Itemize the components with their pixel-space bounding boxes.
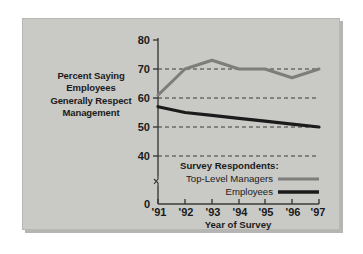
x-tick-labels: '91 '92 '93 '94 '95 '96 '97: [152, 206, 326, 218]
y-tick-40: 40: [138, 150, 150, 162]
x-tick-91: '91: [152, 206, 167, 218]
x-tick-92: '92: [179, 206, 194, 218]
y-tick-50: 50: [138, 121, 150, 133]
axis-break-icon: [154, 176, 158, 186]
y-tick-60: 60: [138, 92, 150, 104]
series-line-top-level-managers: [158, 60, 319, 95]
x-axis: [158, 199, 319, 204]
line-chart: 80 70 60 50 40 0 '91 '92 '93 '94 '95 '96: [22, 18, 340, 230]
legend-label-employees: Employees: [226, 186, 274, 197]
legend-heading: Survey Respondents:: [180, 160, 279, 171]
series-line-employees: [158, 107, 319, 127]
y-tick-labels: 80 70 60 50 40 0: [138, 34, 150, 210]
x-tick-96: '96: [286, 206, 301, 218]
y-tick-80: 80: [138, 34, 150, 46]
x-tick-95: '95: [259, 206, 274, 218]
y-axis: [153, 38, 158, 204]
y-tick-70: 70: [138, 63, 150, 75]
x-axis-title: Year of Survey: [205, 219, 272, 230]
x-tick-93: '93: [206, 206, 221, 218]
legend: Survey Respondents: Top-Level Managers E…: [180, 160, 319, 197]
legend-label-top-level-managers: Top-Level Managers: [186, 173, 273, 184]
y-tick-0: 0: [144, 198, 150, 210]
x-tick-94: '94: [233, 206, 249, 218]
x-tick-97: '97: [311, 206, 326, 218]
figure-card: Percent Saying Employees Generally Respe…: [22, 18, 340, 230]
